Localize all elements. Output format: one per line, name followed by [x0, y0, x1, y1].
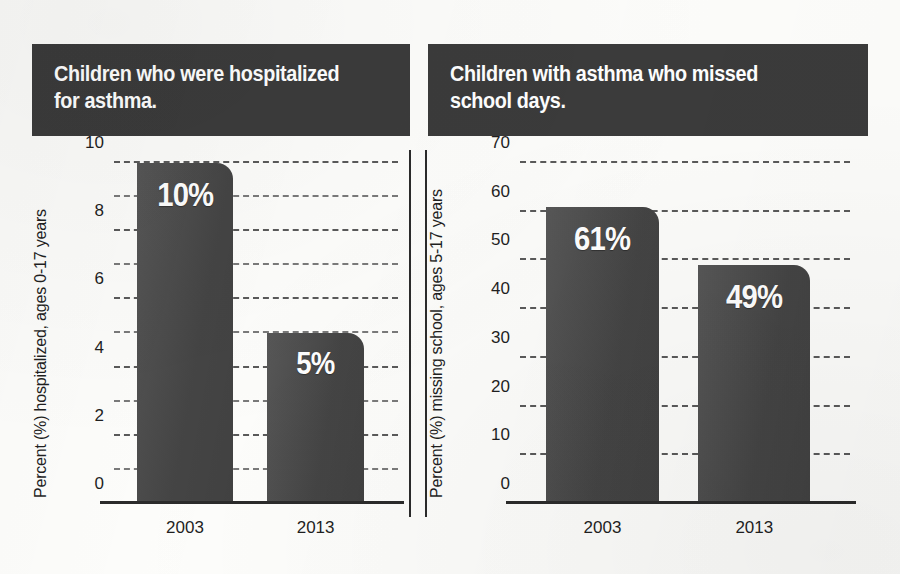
gridline [520, 161, 850, 163]
bar-2003[interactable]: 61% [546, 207, 658, 504]
chart-title-left: Children who were hospitalized for asthm… [54, 61, 355, 115]
y-tick-label: 50 [491, 230, 510, 250]
chart-title-band-right: Children with asthma who missed school d… [428, 44, 868, 136]
bar-value-label: 5% [274, 345, 357, 382]
chart-page: Children who were hospitalized for asthm… [0, 0, 900, 574]
y-tick-label: 6 [95, 269, 104, 289]
panel-divider-right [425, 150, 427, 517]
chart-title-right: Children with asthma who missed school d… [450, 61, 806, 115]
y-tick-label: 40 [491, 279, 510, 299]
bar-value-label: 10% [143, 175, 226, 214]
x-tick-label-2003: 2003 [584, 518, 622, 538]
y-tick-label: 8 [95, 201, 104, 221]
y-tick-label: 0 [501, 474, 510, 494]
y-tick-label: 0 [95, 474, 104, 494]
chart-panel-hospitalized: Children who were hospitalized for asthm… [32, 44, 410, 540]
x-axis-line-right [506, 501, 856, 504]
x-axis-line-left [100, 501, 404, 504]
bar-value-label: 49% [706, 277, 802, 316]
bar-value-label: 61% [554, 219, 650, 258]
y-tick-label: 70 [491, 133, 510, 153]
x-tick-label-2003: 2003 [166, 518, 204, 538]
chart-title-band-left: Children who were hospitalized for asthm… [32, 44, 410, 136]
plot-area-left: 0 2 4 6 8 10 10% 5% 2003 2013 [114, 156, 398, 504]
y-tick-label: 30 [491, 328, 510, 348]
y-tick-label: 4 [95, 338, 104, 358]
y-tick-label: 10 [491, 425, 510, 445]
chart-panel-missed-school: Children with asthma who missed school d… [428, 44, 868, 540]
plot-right: Percent (%) missing school, ages 5-17 ye… [428, 148, 868, 540]
plot-left: Percent (%) hospitalized, ages 0-17 year… [32, 148, 410, 540]
bar-2013[interactable]: 49% [698, 265, 810, 504]
y-axis-label-right: Percent (%) missing school, ages 5-17 ye… [428, 148, 450, 498]
x-tick-label-2013: 2013 [297, 518, 335, 538]
y-tick-label: 2 [95, 406, 104, 426]
y-tick-label: 60 [491, 182, 510, 202]
y-tick-label: 20 [491, 377, 510, 397]
bar-2003[interactable]: 10% [137, 163, 234, 504]
y-axis-label-left: Percent (%) hospitalized, ages 0-17 year… [32, 148, 54, 498]
plot-area-right: 0 10 20 30 40 50 60 70 61% 49% 2003 2013 [520, 156, 850, 504]
panel-divider-left [409, 150, 411, 517]
y-tick-label: 10 [85, 133, 104, 153]
bar-2013[interactable]: 5% [267, 333, 364, 504]
x-tick-label-2013: 2013 [735, 518, 773, 538]
